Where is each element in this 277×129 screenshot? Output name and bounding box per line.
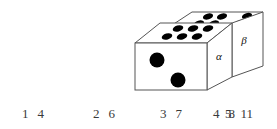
dice-block-svg: β α <box>0 0 277 100</box>
pip <box>171 73 186 88</box>
dice-block-figure: β α <box>0 0 277 100</box>
side-face-alpha-label: α <box>216 50 222 62</box>
answer-option[interactable]: 14 <box>22 106 44 122</box>
answer-option-key: 1 <box>22 106 29 121</box>
pip <box>150 53 165 68</box>
answer-option-value: 7 <box>176 106 183 121</box>
answer-option[interactable]: 26 <box>93 106 115 122</box>
answer-option-value: 4 <box>38 106 45 121</box>
answer-option-key: 4 <box>213 106 220 121</box>
answer-option-value: 11 <box>241 106 254 121</box>
side-face-beta-label: β <box>240 34 247 46</box>
side-face-beta <box>232 12 263 77</box>
answer-option-key: 3 <box>160 106 167 121</box>
answer-option-value: 6 <box>109 106 116 121</box>
answer-option[interactable]: 37 <box>160 106 182 122</box>
side-face-beta-group: β <box>232 12 263 77</box>
figure-page: β α 14 26 37 48 511 <box>0 0 277 129</box>
front-face-group <box>135 43 207 90</box>
answer-options-row: 14 26 37 48 511 <box>0 100 277 129</box>
answer-option-key: 2 <box>93 106 100 121</box>
answer-option-key: 5 <box>225 106 232 121</box>
answer-option[interactable]: 511 <box>225 106 253 122</box>
front-face-two-pips <box>135 43 207 90</box>
